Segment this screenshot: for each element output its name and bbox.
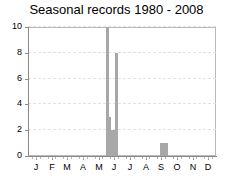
x-tick-minor [212,157,213,159]
x-tick-minor [181,157,182,159]
y-tick-label: 2 [0,125,22,134]
x-tick-minor [102,157,103,159]
x-tick-label: D [202,163,214,172]
x-tick-minor [173,157,174,159]
chart-figure: Seasonal records 1980 - 2008 0246810 JFM… [0,0,233,182]
x-tick-label: F [46,163,58,172]
x-tick-minor [87,157,88,159]
x-tick-label: A [140,163,152,172]
x-tick-minor [134,157,135,159]
x-tick-minor [114,157,115,159]
x-tick-minor [99,157,100,159]
y-tick-label: 0 [0,151,22,160]
y-tick-label: 4 [0,99,22,108]
x-tick-minor [63,157,64,159]
x-tick-minor [32,157,33,159]
x-tick-minor [110,157,111,159]
x-tick-label: J [108,163,120,172]
y-tick-label: 6 [0,74,22,83]
x-tick-minor [146,157,147,159]
x-tick-minor [40,157,41,159]
x-tick-label: O [171,163,183,172]
x-tick-label: J [124,163,136,172]
x-tick-label: M [93,163,105,172]
x-tick-minor [165,157,166,159]
x-tick-minor [52,157,53,159]
x-tick-minor [177,157,178,159]
x-tick-label: A [77,163,89,172]
x-tick-minor [142,157,143,159]
x-tick-label: J [30,163,42,172]
x-tick-minor [208,157,209,159]
x-tick-label: N [187,163,199,172]
chart-title: Seasonal records 1980 - 2008 [0,2,233,17]
x-tick-minor [130,157,131,159]
x-tick-minor [55,157,56,159]
y-tick-mark [25,156,28,157]
x-tick-minor [83,157,84,159]
y-tick-label: 8 [0,48,22,57]
x-tick-minor [189,157,190,159]
x-tick-label: M [61,163,73,172]
x-tick-minor [126,157,127,159]
x-tick-minor [193,157,194,159]
x-tick-minor [71,157,72,159]
bars-series [28,27,216,156]
y-tick-label: 10 [0,22,22,31]
bar [115,53,118,156]
x-tick-minor [157,157,158,159]
x-tick-minor [95,157,96,159]
x-tick-minor [79,157,80,159]
x-tick-minor [161,157,162,159]
bar [165,143,168,156]
x-tick-minor [196,157,197,159]
x-tick-label: S [155,163,167,172]
x-tick-minor [204,157,205,159]
x-tick-minor [118,157,119,159]
x-tick-minor [36,157,37,159]
x-tick-minor [149,157,150,159]
x-tick-minor [48,157,49,159]
x-tick-minor [67,157,68,159]
